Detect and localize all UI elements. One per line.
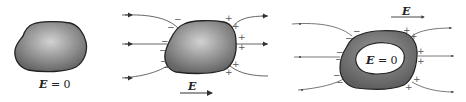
- cavity-field-zero-label: E = 0: [365, 54, 398, 67]
- svg-text:+: +: [410, 31, 418, 41]
- panel-conductor-in-field: − − − − − − + + + + + + E: [122, 13, 268, 93]
- field-line: [412, 28, 452, 36]
- field-label: E: [187, 80, 197, 93]
- conductor-shape: [165, 21, 236, 74]
- svg-text:−: −: [163, 62, 171, 72]
- svg-text:−: −: [353, 26, 361, 36]
- svg-text:+: +: [413, 74, 421, 84]
- field-label: E: [401, 5, 411, 18]
- panel-hollow-conductor: E E = 0 − − − − − − + + + +: [292, 5, 454, 93]
- svg-text:+: +: [405, 82, 413, 92]
- svg-text:−: −: [174, 14, 182, 24]
- svg-text:+: +: [238, 42, 246, 52]
- conductor-shape: [15, 22, 87, 72]
- field-line: [292, 24, 352, 37]
- svg-text:+: +: [225, 67, 233, 77]
- svg-text:−: −: [345, 33, 353, 43]
- svg-text:+: +: [417, 46, 425, 56]
- svg-text:−: −: [336, 77, 344, 87]
- field-zero-label: E = 0: [38, 78, 71, 91]
- svg-text:−: −: [159, 45, 167, 55]
- svg-text:+: +: [417, 56, 425, 66]
- svg-text:−: −: [167, 22, 175, 32]
- svg-text:+: +: [238, 32, 246, 42]
- svg-text:−: −: [335, 54, 343, 64]
- svg-text:+: +: [232, 21, 240, 31]
- conductor-diagram: E = 0 − − − − − − + + + + +: [0, 0, 466, 102]
- panel-isolated-conductor: E = 0: [15, 22, 87, 91]
- svg-text:+: +: [232, 59, 240, 69]
